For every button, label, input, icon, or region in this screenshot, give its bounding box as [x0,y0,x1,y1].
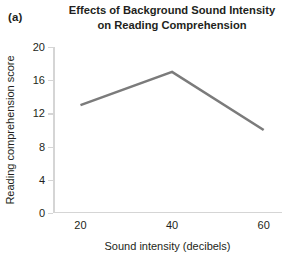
y-tick-label: 16 [33,74,45,86]
y-tick-label: 20 [33,41,45,53]
chart-title-line-1: Effects of Background Sound Intensity [52,3,292,18]
chart-title-line-2: on Reading Comprehension [52,18,292,33]
x-axis-title: Sound intensity (decibels) [53,240,282,252]
chart-title: Effects of Background Sound Intensity on… [52,3,292,33]
y-tick-label: 12 [33,107,45,119]
figure-panel: (a) Effects of Background Sound Intensit… [0,0,303,265]
y-tick-label: 0 [39,207,45,219]
y-tick-label: 8 [39,141,45,153]
y-tick [48,213,53,214]
x-tick-label: 20 [74,219,86,231]
y-tick-label: 4 [39,174,45,186]
panel-label: (a) [8,11,22,23]
plot-area: 048121620 204060 [53,47,282,213]
x-tick-label: 60 [258,219,270,231]
x-tick-label: 40 [166,219,178,231]
data-series-line [53,47,282,213]
y-axis-title: Reading comprehension score [4,47,19,213]
